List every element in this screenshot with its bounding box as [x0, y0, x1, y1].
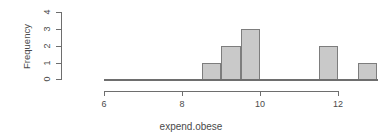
x-tick-label-6: 6 — [92, 99, 116, 109]
x-tick-6 — [104, 91, 105, 96]
x-axis-line — [104, 91, 338, 92]
histogram-plot: 4 3 2 1 0 Frequency 6 8 10 12 expend.obe… — [0, 0, 382, 139]
histogram-bar-1 — [202, 63, 221, 80]
y-tick-3 — [56, 29, 61, 30]
x-tick-label-8: 8 — [170, 99, 194, 109]
y-tick-0 — [56, 79, 61, 80]
x-tick-12 — [338, 91, 339, 96]
histogram-bar-5 — [358, 63, 377, 80]
y-tick-1 — [56, 63, 61, 64]
x-tick-label-12: 12 — [326, 99, 350, 109]
y-tick-label-0: 0 — [42, 73, 52, 85]
histogram-bar-4 — [319, 46, 338, 80]
y-tick-4 — [56, 12, 61, 13]
x-tick-label-10: 10 — [248, 99, 272, 109]
histogram-bar-3 — [241, 29, 260, 80]
y-tick-2 — [56, 46, 61, 47]
y-axis-title: Frequency — [21, 12, 32, 82]
x-tick-10 — [260, 91, 261, 96]
y-tick-label-2: 2 — [42, 40, 52, 52]
x-tick-8 — [182, 91, 183, 96]
x-axis-title: expend.obese — [0, 121, 382, 132]
y-tick-label-1: 1 — [42, 57, 52, 69]
plot-baseline — [104, 79, 378, 81]
y-axis-line — [61, 12, 62, 80]
histogram-bar-2 — [221, 46, 241, 80]
y-tick-label-3: 3 — [42, 23, 52, 35]
y-tick-label-4: 4 — [42, 6, 52, 18]
